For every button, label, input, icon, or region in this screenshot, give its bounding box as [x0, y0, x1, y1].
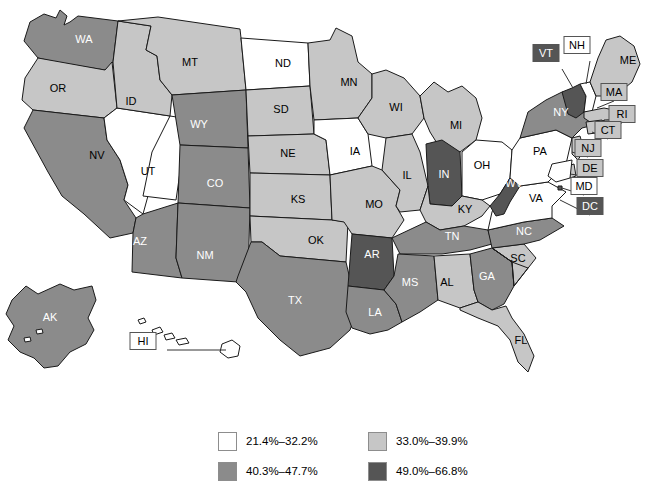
callout-swatch-nj	[575, 140, 601, 157]
island-outline	[24, 337, 31, 342]
state-fl	[460, 302, 534, 372]
legend-grid: 21.4%–32.2%33.0%–39.9%40.3%–47.7%49.0%–6…	[218, 426, 518, 486]
callout-md: MD	[571, 178, 597, 195]
callout-line-vt	[562, 69, 573, 88]
callout-ri: RI	[609, 106, 635, 123]
callout-ct: CT	[595, 122, 621, 139]
state-ar	[348, 234, 394, 290]
legend-swatch-bin4	[368, 462, 387, 481]
map-legend: 21.4%–32.2%33.0%–39.9%40.3%–47.7%49.0%–6…	[0, 418, 656, 489]
state-nm	[176, 203, 250, 282]
callout-swatch-de	[577, 160, 603, 177]
callout-swatch-hi	[130, 333, 156, 350]
us-choropleth-figure: WAORIDCANVUTMTWYCOAZNMNDSDNEKSOKTXMNIAMO…	[0, 0, 656, 489]
legend-label-bin2: 33.0%–39.9%	[396, 435, 468, 447]
state-ak	[6, 284, 96, 368]
state-nd	[241, 38, 310, 90]
callout-swatch-ma	[601, 84, 627, 101]
legend-label-bin4: 49.0%–66.8%	[396, 465, 468, 477]
legend-label-bin3: 40.3%–47.7%	[246, 465, 318, 477]
state-sd	[246, 86, 314, 136]
legend-item-bin3: 40.3%–47.7%	[218, 456, 368, 486]
state-dc	[558, 186, 562, 190]
state-hi	[220, 340, 240, 358]
callout-swatch-vt	[533, 45, 559, 62]
state-shapes-group	[6, 10, 640, 372]
us-map-svg: WAORIDCANVUTMTWYCOAZNMNDSDNEKSOKTXMNIAMO…	[0, 0, 656, 400]
state-az	[132, 203, 182, 278]
island-outline	[36, 329, 43, 334]
state-in	[426, 140, 462, 206]
island-outline	[164, 333, 175, 340]
legend-item-bin1: 21.4%–32.2%	[218, 426, 368, 456]
callout-vt: VT	[533, 45, 559, 62]
legend-swatch-bin1	[218, 432, 237, 451]
callout-ma: MA	[601, 84, 627, 101]
state-co	[178, 145, 250, 208]
callout-swatch-ri	[609, 106, 635, 123]
legend-item-bin2: 33.0%–39.9%	[368, 426, 518, 456]
state-ks	[250, 173, 332, 220]
legend-swatch-bin3	[218, 462, 237, 481]
callout-nj: NJ	[575, 140, 601, 157]
state-wy	[172, 90, 248, 148]
legend-item-bin4: 49.0%–66.8%	[368, 456, 518, 486]
state-mn	[308, 28, 372, 120]
callout-dc: DC	[577, 198, 603, 215]
callout-line-nh	[586, 61, 590, 84]
island-outline	[138, 318, 146, 324]
callout-hi: HI	[130, 333, 156, 350]
legend-label-bin1: 21.4%–32.2%	[246, 435, 318, 447]
island-outline	[176, 338, 189, 345]
state-mi	[420, 82, 482, 152]
callout-nh: NH	[564, 37, 590, 54]
callout-swatch-nh	[564, 37, 590, 54]
callout-de: DE	[577, 160, 603, 177]
callout-swatch-ct	[595, 122, 621, 139]
callout-swatch-dc	[577, 198, 603, 215]
legend-swatch-bin2	[368, 432, 387, 451]
state-ne	[248, 134, 330, 175]
callout-swatch-md	[571, 178, 597, 195]
